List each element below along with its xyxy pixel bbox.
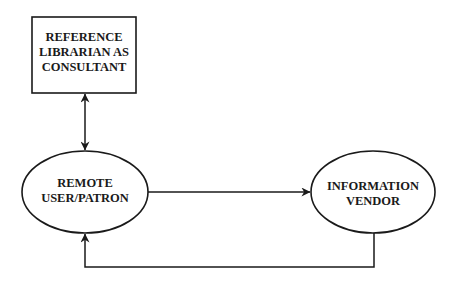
node-label-line: CONSULTANT: [42, 60, 127, 74]
node-label-line: REFERENCE: [45, 30, 122, 44]
edge-vendor-to-user-return: [85, 233, 374, 267]
node-label-line: INFORMATION: [327, 179, 419, 193]
node-label-line: VENDOR: [346, 194, 401, 208]
node-label-line: REMOTE: [57, 176, 113, 190]
node-remote-user: REMOTE USER/PATRON: [22, 151, 148, 233]
node-reference-librarian: REFERENCE LIBRARIAN AS CONSULTANT: [32, 17, 136, 93]
diagram-canvas: REFERENCE LIBRARIAN AS CONSULTANT REMOTE…: [0, 0, 454, 287]
node-information-vendor: INFORMATION VENDOR: [311, 151, 435, 233]
node-label-line: LIBRARIAN AS: [39, 45, 129, 59]
node-label-line: USER/PATRON: [41, 191, 129, 205]
